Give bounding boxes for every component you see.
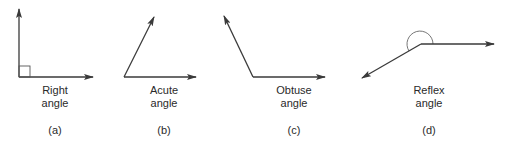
angles-diagram bbox=[0, 0, 505, 142]
caption-b: (b) bbox=[144, 124, 184, 137]
label-acute-angle: Acute angle bbox=[124, 84, 204, 110]
caption-d: (d) bbox=[409, 124, 449, 137]
label-line1: Obtuse bbox=[254, 84, 334, 97]
lower-left-ray bbox=[362, 44, 421, 78]
slanted-ray bbox=[224, 16, 253, 77]
right-angle-figure bbox=[19, 9, 93, 77]
acute-angle-figure bbox=[124, 17, 196, 77]
label-right-angle: Right angle bbox=[15, 84, 95, 110]
label-line2: angle bbox=[15, 97, 95, 110]
obtuse-angle-figure bbox=[224, 16, 325, 77]
label-obtuse-angle: Obtuse angle bbox=[254, 84, 334, 110]
label-reflex-angle: Reflex angle bbox=[389, 84, 469, 110]
caption-a: (a) bbox=[35, 124, 75, 137]
label-line1: Acute bbox=[124, 84, 204, 97]
caption-c: (c) bbox=[274, 124, 314, 137]
reflex-arc bbox=[407, 31, 433, 51]
reflex-angle-figure bbox=[362, 31, 494, 78]
label-line1: Reflex bbox=[389, 84, 469, 97]
label-line1: Right bbox=[15, 84, 95, 97]
label-line2: angle bbox=[254, 97, 334, 110]
label-line2: angle bbox=[124, 97, 204, 110]
slanted-ray bbox=[124, 17, 154, 77]
label-line2: angle bbox=[389, 97, 469, 110]
right-angle-marker bbox=[19, 66, 30, 77]
